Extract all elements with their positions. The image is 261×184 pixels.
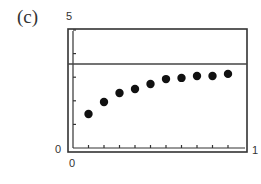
data-point bbox=[193, 72, 201, 80]
data-point bbox=[131, 85, 139, 93]
data-point bbox=[146, 80, 154, 88]
scatter-plot bbox=[0, 0, 261, 184]
data-point bbox=[177, 74, 185, 82]
data-point bbox=[115, 89, 123, 97]
data-point bbox=[100, 98, 108, 106]
plot-frame bbox=[68, 29, 247, 152]
data-point bbox=[224, 70, 232, 78]
data-point bbox=[208, 72, 216, 80]
data-point bbox=[162, 75, 170, 83]
data-point bbox=[84, 110, 92, 118]
